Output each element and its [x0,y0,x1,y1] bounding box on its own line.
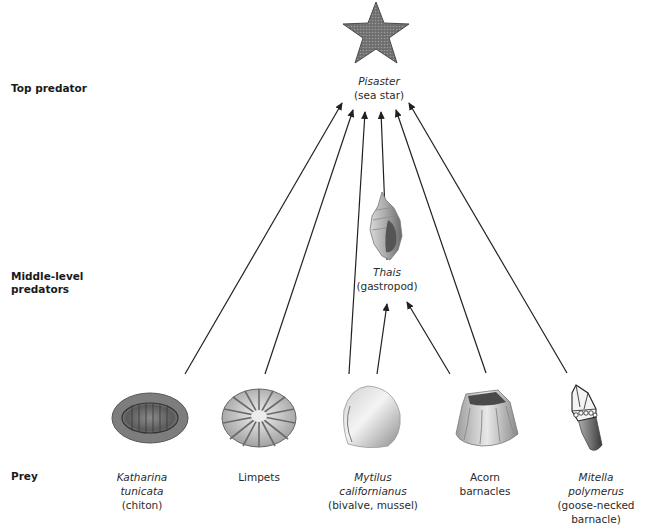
mytilus-sci-name-line1: Mytilus [328,470,418,484]
limpet-icon [220,387,298,449]
thais-common-name: (gastropod) [356,279,417,293]
mitella-common-name-line2: barnacle) [557,512,634,526]
arrow-mitella-to-pisaster [409,103,567,373]
thais-caption: Thais (gastropod) [356,265,417,293]
chiton-sci-name-line1: Katharina [117,470,167,484]
arrow-chiton-to-pisaster [185,103,342,374]
limpets-caption: Limpets [238,470,280,484]
pisaster-caption: Pisaster (sea star) [354,74,404,102]
mitella-common-name-line1: (goose-necked [557,498,634,512]
thais-sci-name: Thais [356,265,417,279]
limpets-common-name: Limpets [238,470,280,484]
arrow-acorn-to-thais [407,302,450,374]
chiton-common-name: (chiton) [117,498,167,512]
food-web-arrows [0,0,645,528]
acorn-common-name-line1: Acorn [460,470,511,484]
arrow-mytilus-to-thais [377,304,387,374]
acorn-common-name-line2: barnacles [460,484,511,498]
pisaster-sci-name: Pisaster [354,74,404,88]
chiton-caption: Katharina tunicata (chiton) [117,470,167,512]
snail-shell-icon [364,190,408,262]
mytilus-sci-name-line2: californianus [328,484,418,498]
mitella-sci-name-line2: polymerus [557,484,634,498]
sea-star-icon [341,1,411,67]
acorn-caption: Acorn barnacles [460,470,511,498]
mitella-sci-name-line1: Mitella [557,470,634,484]
chiton-sci-name-line2: tunicata [117,484,167,498]
mitella-caption: Mitella polymerus (goose-necked barnacle… [557,470,634,526]
arrow-mytilus-to-pisaster [349,112,365,374]
goose-barnacle-icon [568,383,604,453]
acorn-barnacle-icon [454,384,520,448]
arrow-acorn-to-pisaster [396,110,486,373]
arrow-limpets-to-pisaster [265,110,353,374]
mussel-icon [338,384,404,450]
mytilus-common-name: (bivalve, mussel) [328,498,418,512]
chiton-icon [110,390,190,446]
pisaster-common-name: (sea star) [354,88,404,102]
mytilus-caption: Mytilus californianus (bivalve, mussel) [328,470,418,512]
